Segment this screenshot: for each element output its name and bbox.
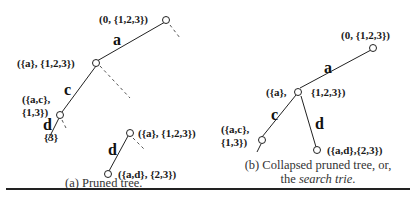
node-label-root: (0, {1,2,3}) — [99, 13, 148, 25]
edge-label-a: a — [113, 32, 121, 48]
edge-label-d: d — [315, 116, 324, 132]
caption-b-emphasis: search trie — [299, 172, 352, 186]
edge-label-a: a — [324, 60, 332, 76]
node-label-a-right: {1,2,3}) — [311, 86, 345, 98]
bottom-rule — [6, 188, 410, 190]
node-label-a-left: ({a}, — [266, 86, 287, 98]
search-trie-edges — [257, 50, 371, 152]
node-label-ac-line2: {1,3}) — [221, 136, 247, 148]
edge-label-c: c — [271, 107, 278, 123]
caption-b-line1: (b) Collapsed pruned tree, or, — [222, 158, 414, 173]
caption-b-suffix: . — [352, 172, 355, 186]
edge-label-c: c — [64, 82, 71, 98]
node-label-ac-line1: ({a,c}, — [221, 123, 249, 135]
node-label-a-sub: ({a}, {1,2,3}) — [138, 127, 196, 139]
node-label-root: (0, {1,2,3}) — [341, 29, 390, 41]
edge-label-d: d — [108, 142, 117, 158]
search-trie-nodes — [259, 45, 377, 154]
caption-b-prefix: the — [281, 172, 299, 186]
node-label-a: ({a}, {1,2,3}) — [17, 57, 75, 69]
node-label-leaf-3: {3} — [44, 131, 58, 143]
caption-b-line2: the search trie. — [222, 172, 414, 187]
node-label-ad: ({a,d},{2,3}) — [327, 144, 383, 156]
node-label-ac-line1: ({a,c}, — [22, 93, 50, 105]
